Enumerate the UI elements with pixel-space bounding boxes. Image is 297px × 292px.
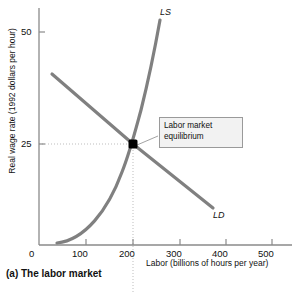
equilibrium-annotation-box: Labor market equilibrium [159, 117, 243, 148]
x-axis-title: Labor (billions of hours per year) [146, 259, 268, 268]
chart-canvas [0, 0, 297, 292]
annotation-line-1: Labor market [164, 121, 238, 132]
x-tick-label-200: 200 [119, 249, 135, 259]
y-tick-label-50: 50 [21, 27, 32, 37]
y-axis-title: Real wage rate (1992 dollars per hour) [8, 44, 17, 174]
figure-caption: (a) The labor market [6, 268, 102, 279]
labor-market-figure: 50 25 0 100 200 300 400 500 Real wage ra… [0, 0, 297, 292]
x-tick-label-100: 100 [72, 249, 88, 259]
y-tick-label-25: 25 [21, 139, 32, 149]
x-tick-label-0: 0 [29, 249, 34, 259]
labor-supply-curve [57, 20, 160, 243]
annotation-line-2: equilibrium [164, 132, 238, 143]
annotation-leader-line [137, 136, 158, 145]
labor-supply-curve-label: LS [160, 8, 171, 17]
labor-demand-curve-label: LD [213, 211, 225, 220]
equilibrium-marker [129, 140, 138, 149]
